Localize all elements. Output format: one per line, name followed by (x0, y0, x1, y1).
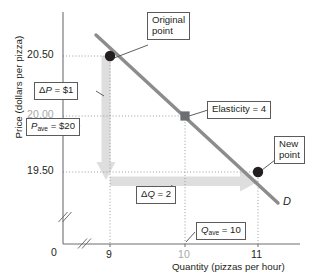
delta-q-callout: ΔQ = 2 (136, 186, 176, 204)
new-point-marker (253, 167, 263, 177)
y-axis-title: Price (dollars per pizza) (14, 17, 24, 157)
x-tick-10: 10 (178, 249, 190, 260)
x-axis-title: Quantity (pizzas per hour) (172, 262, 285, 272)
original-point-callout-line2: point (152, 26, 185, 37)
delta-p-callout: ΔP = $1 (34, 82, 78, 100)
y-tick-19-50: 19.50 (27, 165, 54, 176)
elasticity-callout: Elasticity = 4 (207, 101, 271, 119)
p-average-subscript: ave (37, 125, 48, 132)
demand-curve-label: D (283, 195, 291, 207)
q-average-callout: Qave = 10 (196, 222, 246, 240)
q-average-value: = 10 (219, 224, 241, 235)
p-average-value: = $20 (48, 120, 75, 131)
elasticity-midpoint-marker (180, 111, 189, 120)
y-tick-zero: 0 (51, 247, 57, 258)
delta-p-value: = $1 (52, 84, 74, 95)
original-point-callout: Original point (147, 12, 190, 40)
x-tick-11: 11 (251, 249, 262, 260)
original-point-callout-line1: Original (152, 15, 185, 26)
delta-q-value: = 2 (155, 188, 171, 199)
x-tick-9: 9 (106, 249, 112, 260)
new-point-callout-line2: point (279, 150, 300, 161)
q-average-subscript: ave (208, 229, 219, 236)
y-tick-20-50: 20.50 (27, 49, 54, 60)
p-average-callout: Pave = $20 (26, 118, 80, 136)
original-point-marker (105, 51, 115, 61)
delta-q-variable: Q (147, 188, 154, 199)
new-point-callout-line1: New (279, 139, 300, 150)
new-point-callout: New point (274, 136, 305, 164)
